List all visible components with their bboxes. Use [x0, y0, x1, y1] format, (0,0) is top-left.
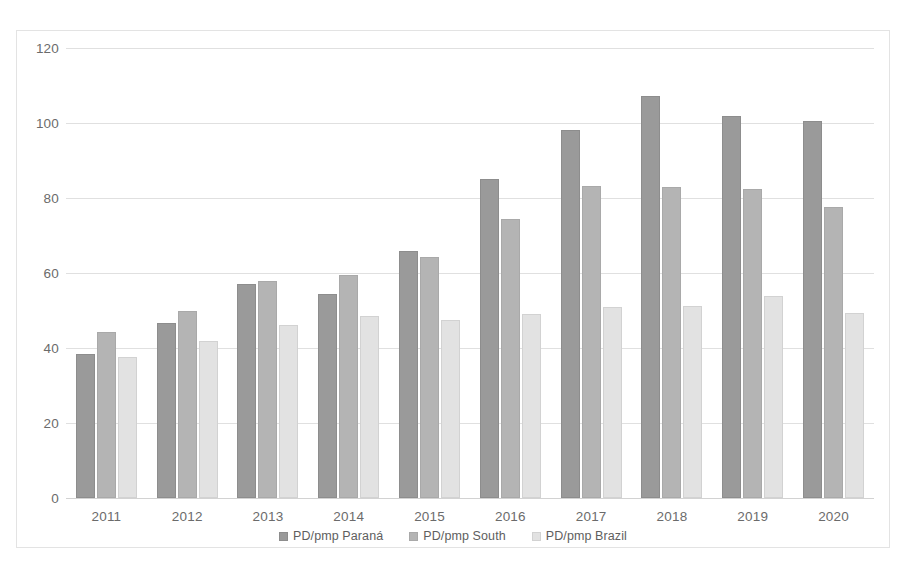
bar: [561, 130, 580, 498]
bar-group: [389, 48, 470, 498]
y-axis-tick-label: 80: [44, 190, 59, 205]
x-axis-tick-label: 2016: [470, 509, 551, 524]
bar-group: [632, 48, 713, 498]
bar: [803, 121, 822, 498]
bar: [522, 314, 541, 499]
bar: [178, 311, 197, 499]
bar-group: [551, 48, 632, 498]
x-axis-tick-label: 2011: [66, 509, 147, 524]
x-axis-tick-label: 2019: [712, 509, 793, 524]
bar: [743, 189, 762, 498]
bar: [764, 296, 783, 498]
y-axis-tick-label: 120: [36, 41, 59, 56]
x-axis-tick-label: 2013: [228, 509, 309, 524]
bar: [360, 316, 379, 498]
x-axis-tick-label: 2014: [308, 509, 389, 524]
bar: [420, 257, 439, 499]
bar: [97, 332, 116, 499]
x-axis-tick-label: 2015: [389, 509, 470, 524]
bar-group: [712, 48, 793, 498]
y-axis-tick-label: 100: [36, 115, 59, 130]
bar-group: [147, 48, 228, 498]
bar: [480, 179, 499, 498]
bar: [845, 313, 864, 498]
bar: [199, 341, 218, 499]
bar: [683, 306, 702, 498]
bar: [118, 357, 137, 498]
legend-item[interactable]: PD/pmp Paraná: [279, 529, 383, 543]
bar: [582, 186, 601, 498]
bar: [399, 251, 418, 498]
plot-area: 020406080100120: [66, 48, 874, 498]
bar: [339, 275, 358, 499]
bar: [157, 323, 176, 499]
bar-groups: [66, 48, 874, 498]
bar: [258, 281, 277, 499]
legend-label: PD/pmp South: [423, 529, 506, 543]
bar: [603, 307, 622, 498]
bar: [662, 187, 681, 498]
x-axis-tick-label: 2018: [632, 509, 713, 524]
x-axis-tick-label: 2017: [551, 509, 632, 524]
bar: [318, 294, 337, 498]
chart-container: 020406080100120 201120122013201420152016…: [16, 30, 890, 548]
bar: [824, 207, 843, 498]
x-axis-labels: 2011201220132014201520162017201820192020: [66, 509, 874, 524]
bar-group: [308, 48, 389, 498]
legend-label: PD/pmp Brazil: [546, 529, 627, 543]
bar-group: [793, 48, 874, 498]
y-axis-tick-label: 20: [44, 416, 59, 431]
bar: [279, 325, 298, 498]
bar: [76, 354, 95, 498]
y-axis-tick-label: 60: [44, 266, 59, 281]
bar-group: [470, 48, 551, 498]
gridline: [66, 498, 874, 499]
x-axis-tick-label: 2012: [147, 509, 228, 524]
y-axis-tick-label: 40: [44, 340, 59, 355]
legend-item[interactable]: PD/pmp Brazil: [532, 529, 627, 543]
bar: [237, 284, 256, 498]
legend-swatch-icon: [279, 532, 288, 541]
bar: [722, 116, 741, 498]
bar: [501, 219, 520, 498]
y-axis-tick-label: 0: [51, 491, 59, 506]
chart-legend: PD/pmp ParanáPD/pmp SouthPD/pmp Brazil: [17, 529, 889, 543]
x-axis-tick-label: 2020: [793, 509, 874, 524]
bar: [441, 320, 460, 498]
bar: [641, 96, 660, 498]
bar-group: [66, 48, 147, 498]
legend-swatch-icon: [409, 532, 418, 541]
bar-group: [228, 48, 309, 498]
legend-item[interactable]: PD/pmp South: [409, 529, 506, 543]
legend-swatch-icon: [532, 532, 541, 541]
legend-label: PD/pmp Paraná: [293, 529, 383, 543]
